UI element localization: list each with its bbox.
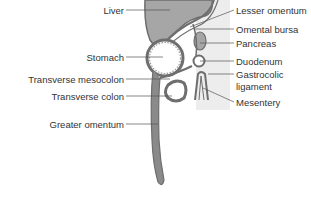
- label-greater-omentum: Greater omentum: [50, 119, 124, 130]
- label-lesser-omentum: Lesser omentum: [236, 5, 307, 16]
- label-transverse-mesocolon: Transverse mesocolon: [28, 74, 124, 85]
- greater-omentum-shape: [151, 70, 164, 185]
- label-gastrocolic-ligament-line2: ligament: [236, 81, 272, 92]
- label-gastrocolic-ligament: Gastrocolic: [236, 69, 284, 80]
- label-pancreas: Pancreas: [236, 38, 276, 49]
- label-stomach: Stomach: [87, 52, 125, 63]
- label-omental-bursa: Omental bursa: [236, 24, 298, 35]
- transverse-colon-shape: [166, 81, 187, 101]
- label-duodenum: Duodenum: [236, 56, 282, 67]
- label-mesentery: Mesentery: [236, 97, 280, 108]
- label-liver: Liver: [103, 5, 124, 16]
- label-transverse-colon: Transverse colon: [51, 91, 124, 102]
